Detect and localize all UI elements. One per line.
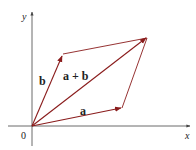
origin-label: 0 xyxy=(21,130,26,141)
side-b-translated xyxy=(122,38,147,108)
vector-diagram: a b a + b x y 0 xyxy=(0,0,196,150)
vector-a xyxy=(32,108,121,126)
label-a: a xyxy=(80,104,86,118)
side-a-translated xyxy=(63,38,147,54)
vector-b xyxy=(32,56,62,126)
y-axis-label: y xyxy=(21,11,27,22)
label-b: b xyxy=(39,74,46,88)
label-a-plus-b: a + b xyxy=(63,69,89,83)
vector-a-plus-b xyxy=(32,38,146,126)
x-axis-label: x xyxy=(184,130,190,141)
